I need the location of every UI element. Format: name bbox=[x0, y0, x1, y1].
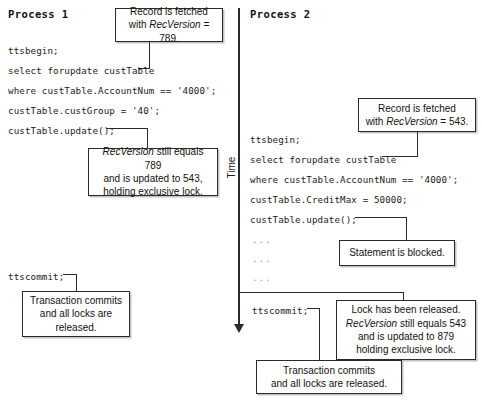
callout-p1-commit-line1: Transaction commits bbox=[30, 295, 122, 306]
connector-p1-commit-horizontal bbox=[63, 274, 77, 275]
callout-p2-blocked-line1: Statement is blocked. bbox=[349, 247, 445, 258]
connector-p2-fetch-horizontal bbox=[382, 156, 418, 157]
process-2-code-line-3: where custTable.AccountNum == '4000'; bbox=[250, 174, 458, 185]
process-1-code-line-2: select forupdate custTable bbox=[8, 65, 154, 76]
time-axis-arrowhead-icon bbox=[234, 324, 244, 333]
process-2-code-line-1: ttsbegin; bbox=[250, 134, 301, 145]
callout-p2-commit-line1: Transaction commits bbox=[283, 365, 375, 376]
process-2-ellipsis-1: ... bbox=[252, 234, 272, 245]
connector-p2-fetch-vertical bbox=[417, 132, 418, 157]
callout-p1-commit-line3: released. bbox=[55, 322, 96, 333]
process-2-commit-line: ttscommit; bbox=[252, 305, 308, 316]
callout-p2-fetch-line1: Record is fetched bbox=[378, 103, 456, 114]
callout-p2-released-line2-em: RecVersion bbox=[346, 318, 397, 329]
callout-p2-released-line4: holding exclusive lock. bbox=[356, 344, 456, 355]
connector-p1-commit-vertical bbox=[76, 274, 77, 292]
process-2-title: Process 2 bbox=[250, 8, 311, 20]
connector-p1-update-horizontal bbox=[106, 128, 148, 129]
process-2-code-line-5: custTable.update(); bbox=[250, 214, 357, 225]
callout-p1-fetch-line2-em: RecVersion bbox=[149, 19, 200, 30]
callout-p2-fetch-line2-pre: with bbox=[366, 116, 387, 127]
callout-p2-fetch-line2-em: RecVersion bbox=[386, 116, 437, 127]
process-1-code-line-5: custTable.update(); bbox=[8, 125, 115, 136]
callout-p2-commit-line2: and all locks are released. bbox=[271, 378, 387, 389]
time-axis-line bbox=[238, 8, 240, 326]
connector-p1-update-vertical bbox=[147, 128, 148, 149]
callout-p2-released-line3: and is updated to 879 bbox=[358, 331, 454, 342]
connector-p2-released-horizontal bbox=[238, 292, 404, 293]
process-1-title: Process 1 bbox=[8, 8, 69, 20]
process-1-code-line-4: custTable.custGroup = '40'; bbox=[8, 105, 160, 116]
callout-p1-transaction-commits: Transaction commits and all locks are re… bbox=[22, 291, 130, 337]
callout-p1-update-line2: and is updated to 543, bbox=[104, 173, 203, 184]
process-1-commit-line: ttscommit; bbox=[8, 271, 64, 282]
callout-p1-update-line1-post: still equals 789 bbox=[145, 146, 204, 170]
callout-p1-recversion-update: RecVersion still equals 789 and is updat… bbox=[88, 148, 218, 196]
callout-p2-released-line1: Lock has been released. bbox=[352, 304, 461, 315]
callout-p1-commit-line2: and all locks are bbox=[40, 308, 112, 319]
process-lock-timeline-diagram: Time Process 1 ttsbegin; select forupdat… bbox=[0, 0, 482, 406]
callout-p2-released-line2-post: still equals 543 bbox=[397, 318, 466, 329]
callout-p1-update-line3: holding exclusive lock. bbox=[103, 186, 203, 197]
callout-p2-transaction-commits: Transaction commits and all locks are re… bbox=[256, 360, 402, 394]
connector-p2-commit-vertical bbox=[319, 308, 320, 361]
process-2-code-line-2: select forupdate custTable bbox=[250, 154, 396, 165]
callout-p2-lock-released: Lock has been released. RecVersion still… bbox=[336, 300, 476, 360]
process-2-ellipsis-2: ... bbox=[252, 253, 272, 264]
process-1-code-line-3: where custTable.AccountNum == '4000'; bbox=[8, 85, 216, 96]
connector-p2-released-vertical bbox=[403, 292, 404, 301]
callout-p2-record-fetched: Record is fetched with RecVersion = 543. bbox=[358, 98, 476, 132]
process-2-code-line-4: custTable.CreditMax = 50000; bbox=[250, 194, 408, 205]
callout-p1-fetch-line1: Record is fetched bbox=[130, 6, 208, 17]
callout-p1-fetch-line2-pre: with bbox=[129, 19, 150, 30]
connector-p1-fetch-horizontal bbox=[138, 68, 150, 69]
process-1-code-line-1: ttsbegin; bbox=[8, 45, 59, 56]
process-2-ellipsis-3: ... bbox=[252, 272, 272, 283]
callout-p2-fetch-line2-post: = 543. bbox=[438, 116, 469, 127]
connector-p2-blocked-vertical bbox=[406, 217, 407, 241]
connector-p1-fetch-vertical bbox=[149, 42, 150, 69]
time-axis-label: Time bbox=[226, 148, 237, 188]
callout-p2-statement-blocked: Statement is blocked. bbox=[339, 240, 455, 266]
connector-p2-blocked-horizontal bbox=[355, 217, 407, 218]
callout-p1-record-fetched: Record is fetched with RecVersion = 789. bbox=[115, 8, 223, 42]
